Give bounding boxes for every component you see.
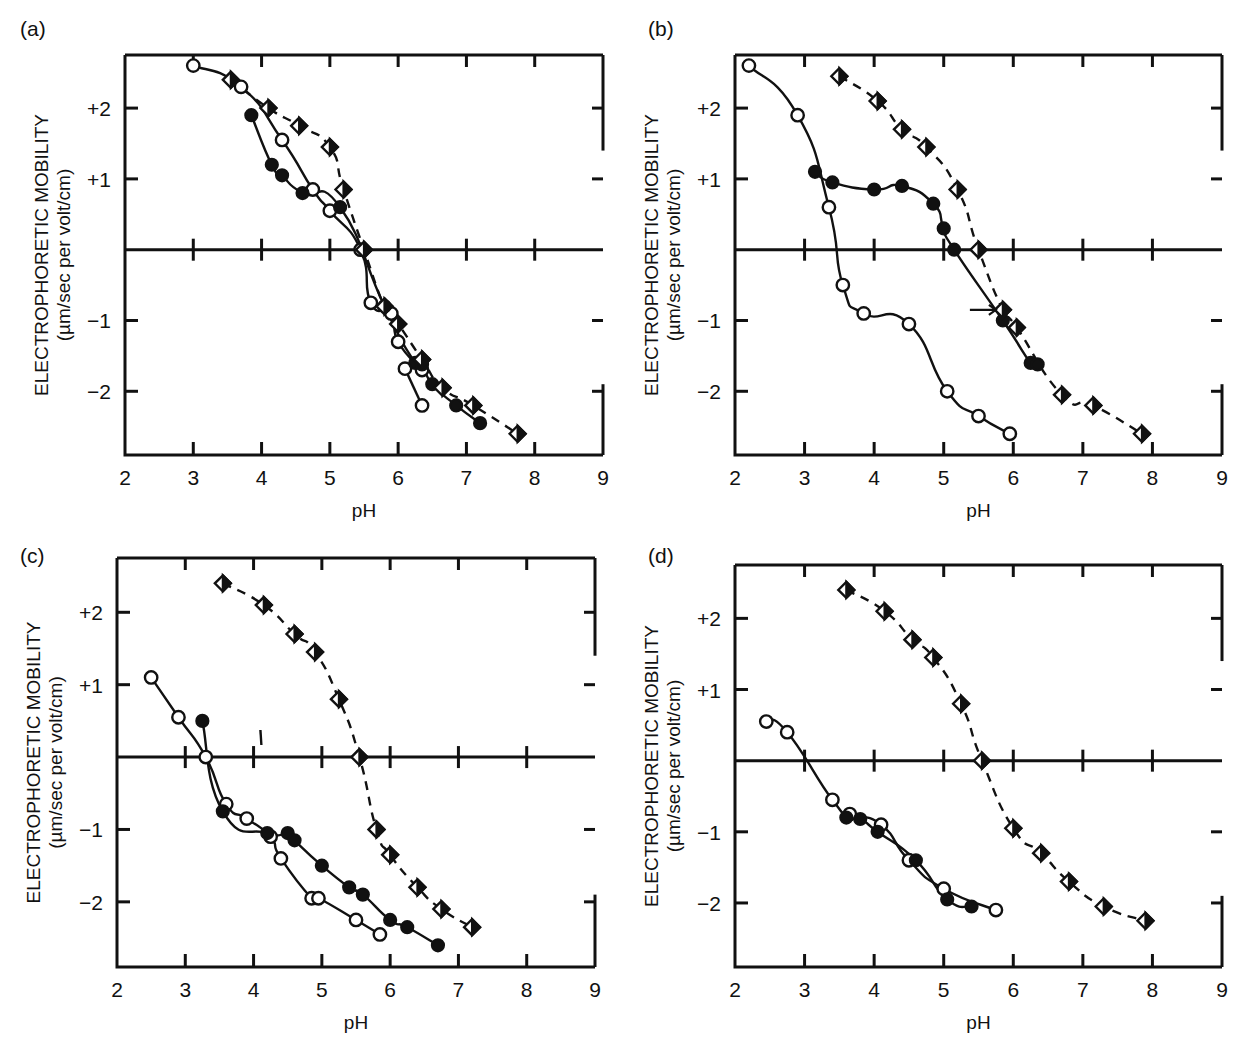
y-axis-title-line1: ELECTROPHORETIC MOBILITY (641, 625, 662, 907)
right-edge-ticks (592, 55, 603, 455)
panel-label: (d) (648, 544, 674, 567)
data-point-half-diamond (1096, 899, 1112, 915)
x-tick-label: 8 (521, 978, 533, 1001)
y-tick-label: +2 (79, 601, 103, 624)
y-tick-label: −2 (87, 380, 111, 403)
x-tick-label: 8 (529, 466, 541, 489)
data-point-open-circle (858, 307, 870, 319)
data-point-half-diamond (971, 242, 987, 258)
data-point-half-diamond (331, 691, 347, 707)
x-tick-label: 2 (119, 466, 131, 489)
y-tick-label: +2 (697, 607, 721, 630)
x-tick-label: 7 (1077, 466, 1089, 489)
data-point-open-circle (990, 904, 1002, 916)
data-point-filled-circle (966, 901, 978, 913)
data-point-half-diamond (1005, 820, 1021, 836)
data-point-filled-circle (941, 893, 953, 905)
data-point-half-diamond (291, 118, 307, 134)
x-tick-labels: 23456789 (729, 466, 1228, 489)
x-tick-label: 9 (1216, 978, 1228, 1001)
data-point-filled-circle (289, 834, 301, 846)
y-tick-label: −1 (697, 821, 721, 844)
x-tick-label: 6 (1007, 466, 1019, 489)
data-point-open-circle (392, 336, 404, 348)
x-tick-label: 5 (324, 466, 336, 489)
data-point-half-diamond (215, 575, 231, 591)
data-point-half-diamond (336, 182, 352, 198)
series-line-half-filled-diamond (846, 590, 1145, 921)
x-tick-label: 3 (187, 466, 199, 489)
y-axis-title-line2: (µm/sec per volt/cm) (663, 169, 684, 341)
y-tick-label: −2 (697, 380, 721, 403)
y-tick-label: −2 (697, 892, 721, 915)
data-point-half-diamond (1054, 387, 1070, 403)
data-point-filled-circle (357, 889, 369, 901)
x-tick-label: 8 (1147, 466, 1159, 489)
y-axis-title-line2: (µm/sec per volt/cm) (663, 680, 684, 852)
data-point-open-circle (172, 711, 184, 723)
y-tick-label: −2 (79, 891, 103, 914)
y-axis-title-line2: (µm/sec per volt/cm) (45, 676, 66, 848)
data-point-half-diamond (918, 139, 934, 155)
data-point-open-circle (275, 852, 287, 864)
x-tick-labels: 23456789 (119, 466, 609, 489)
x-tick-label: 4 (868, 978, 880, 1001)
figure-container: +2+1−1−223456789pHELECTROPHORETIC MOBILI… (0, 0, 1256, 1054)
series-line-filled-circle (202, 721, 438, 945)
data-point-filled-circle (854, 813, 866, 825)
panel-label: (b) (648, 17, 674, 40)
chart-panel-a: +2+1−1−223456789pHELECTROPHORETIC MOBILI… (0, 0, 628, 527)
chart-panel-b: +2+1−1−223456789pHELECTROPHORETIC MOBILI… (628, 0, 1256, 527)
data-point-filled-circle (276, 169, 288, 181)
data-point-open-circle (743, 59, 755, 71)
data-point-filled-circle (896, 180, 908, 192)
x-axis-title: pH (966, 500, 990, 521)
data-point-open-circle (826, 794, 838, 806)
series-line-half-filled-diamond (839, 76, 1142, 434)
x-tick-label: 9 (1216, 466, 1228, 489)
x-tick-labels: 23456789 (729, 978, 1228, 1001)
chart-panel-c: +2+1−1−223456789pHELECTROPHORETIC MOBILI… (0, 527, 628, 1054)
data-point-half-diamond (465, 397, 481, 413)
y-tick-label: +2 (697, 97, 721, 120)
data-point-half-diamond (433, 901, 449, 917)
y-axis-title-line1: ELECTROPHORETIC MOBILITY (31, 114, 52, 396)
y-axis-title-line1: ELECTROPHORETIC MOBILITY (23, 621, 44, 903)
data-point-half-diamond (1085, 397, 1101, 413)
x-tick-label: 8 (1147, 978, 1159, 1001)
annotation-tick-mark (260, 730, 261, 745)
data-point-filled-circle (927, 198, 939, 210)
data-point-filled-circle (826, 176, 838, 188)
y-axis-title-line1: ELECTROPHORETIC MOBILITY (641, 114, 662, 396)
x-tick-label: 2 (729, 978, 741, 1001)
y-tick-label: +1 (87, 168, 111, 191)
x-tick-label: 9 (589, 978, 601, 1001)
data-layer (145, 575, 480, 951)
data-point-half-diamond (1134, 426, 1150, 442)
data-point-filled-circle (316, 860, 328, 872)
data-point-half-diamond (1033, 845, 1049, 861)
data-point-half-diamond (1137, 913, 1153, 929)
x-axis-title: pH (352, 500, 376, 521)
data-point-open-circle (145, 671, 157, 683)
data-point-half-diamond (904, 632, 920, 648)
data-point-filled-circle (334, 201, 346, 213)
data-point-half-diamond (974, 753, 990, 769)
right-edge-ticks (1211, 55, 1222, 455)
x-tick-label: 4 (868, 466, 880, 489)
data-point-half-diamond (510, 426, 526, 442)
data-point-filled-circle (868, 184, 880, 196)
x-tick-label: 7 (453, 978, 465, 1001)
x-axis-title: pH (966, 1012, 990, 1033)
x-tick-label: 7 (461, 466, 473, 489)
data-point-open-circle (416, 399, 428, 411)
data-point-open-circle (972, 410, 984, 422)
data-layer (760, 582, 1153, 929)
series-line-half-filled-diamond (223, 583, 472, 927)
data-point-open-circle (276, 134, 288, 146)
data-point-filled-circle (196, 715, 208, 727)
data-point-half-diamond (838, 582, 854, 598)
data-point-open-circle (791, 109, 803, 121)
x-tick-label: 5 (938, 466, 950, 489)
y-axis-title-line2: (µm/sec per volt/cm) (53, 169, 74, 341)
